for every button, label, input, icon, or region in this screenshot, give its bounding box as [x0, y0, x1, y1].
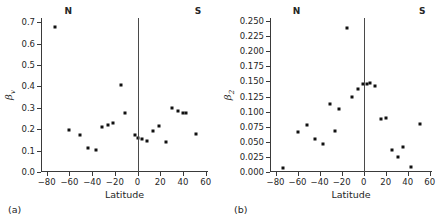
data-point	[369, 81, 372, 84]
data-point	[306, 124, 309, 127]
data-point	[321, 143, 324, 146]
data-point	[350, 96, 353, 99]
data-point	[177, 110, 180, 113]
y-tick-label-a: 0.0	[21, 168, 35, 177]
data-point	[101, 125, 104, 128]
data-point	[346, 27, 349, 30]
x-tick-label-a: 40	[178, 178, 189, 187]
y-axis-title-b: β2	[222, 90, 236, 100]
data-point	[145, 140, 148, 143]
data-point	[185, 111, 188, 114]
x-tick-label-a: −80	[38, 178, 56, 187]
y-tick-label-b: 0.150	[240, 77, 264, 86]
y-tick-b	[266, 127, 270, 128]
y-axis-title-sub-a: v	[9, 90, 17, 94]
x-tick-label-b: 40	[402, 178, 413, 187]
figure-scatter-panels: N S Latitude βv 0.00.10.20.30.40.50.60.7…	[0, 0, 440, 221]
y-tick-b	[266, 21, 270, 22]
x-tick-b	[408, 172, 409, 176]
data-point	[78, 133, 81, 136]
y-tick-b	[266, 172, 270, 173]
y-tick-label-b: 0.250	[240, 17, 264, 26]
x-tick-a	[183, 172, 184, 176]
x-axis-title-a: Latitude	[41, 189, 208, 200]
y-axis-title-sub-b: 2	[228, 90, 236, 94]
y-tick-label-a: 0.5	[21, 61, 35, 70]
x-tick-a	[92, 172, 93, 176]
data-point	[164, 141, 167, 144]
data-point	[328, 102, 331, 105]
data-point	[402, 145, 405, 148]
y-tick-label-a: 0.7	[21, 18, 35, 27]
data-point	[53, 25, 56, 28]
x-tick-a	[115, 172, 116, 176]
data-point	[334, 129, 337, 132]
x-tick-b	[320, 172, 321, 176]
y-tick-label-b: 0.000	[240, 168, 264, 177]
x-tick-b	[298, 172, 299, 176]
x-tick-label-b: −80	[267, 178, 285, 187]
hemisphere-label-south-b: S	[419, 6, 425, 16]
data-point	[94, 148, 97, 151]
data-point	[357, 88, 360, 91]
hemisphere-label-north-b: N	[293, 6, 301, 16]
x-tick-b	[430, 172, 431, 176]
data-point	[384, 116, 387, 119]
data-point	[314, 137, 317, 140]
y-tick-a	[37, 65, 41, 66]
x-tick-label-b: −20	[333, 178, 351, 187]
data-point	[396, 155, 399, 158]
y-tick-b	[266, 36, 270, 37]
x-tick-a	[47, 172, 48, 176]
y-tick-label-a: 0.1	[21, 146, 35, 155]
x-axis-title-b: Latitude	[270, 189, 432, 200]
data-point	[68, 129, 71, 132]
y-tick-a	[37, 86, 41, 87]
y-tick-label-b: 0.200	[240, 47, 264, 56]
reference-line-a	[138, 18, 139, 172]
data-point	[373, 85, 376, 88]
data-point	[296, 130, 299, 133]
data-point	[152, 129, 155, 132]
y-tick-label-b: 0.075	[240, 122, 264, 131]
y-tick-label-b: 0.025	[240, 153, 264, 162]
y-axis-a	[41, 18, 42, 172]
y-tick-a	[37, 44, 41, 45]
x-tick-b	[342, 172, 343, 176]
y-tick-label-a: 0.3	[21, 104, 35, 113]
y-tick-a	[37, 129, 41, 130]
x-tick-label-b: 0	[361, 178, 366, 187]
hemisphere-label-north-a: N	[64, 6, 72, 16]
x-tick-b	[276, 172, 277, 176]
y-tick-b	[266, 157, 270, 158]
data-point	[107, 123, 110, 126]
data-point	[338, 108, 341, 111]
x-tick-label-b: 60	[424, 178, 435, 187]
data-point	[194, 132, 197, 135]
y-tick-b	[266, 51, 270, 52]
y-tick-b	[266, 66, 270, 67]
plot-area-b: N S Latitude β2 0.0000.0250.0500.0750.10…	[270, 18, 432, 172]
data-point	[119, 83, 122, 86]
y-tick-label-b: 0.175	[240, 62, 264, 71]
data-point	[124, 111, 127, 114]
y-tick-label-a: 0.2	[21, 125, 35, 134]
y-axis-title-base-a: β	[3, 94, 14, 100]
reference-line-b	[364, 18, 365, 172]
y-axis-title-base-b: β	[222, 94, 233, 100]
y-tick-label-a: 0.4	[21, 82, 35, 91]
data-point	[170, 106, 173, 109]
y-tick-label-a: 0.6	[21, 39, 35, 48]
x-tick-b	[386, 172, 387, 176]
y-tick-a	[37, 151, 41, 152]
y-tick-label-b: 0.125	[240, 92, 264, 101]
y-tick-label-b: 0.225	[240, 32, 264, 41]
y-tick-label-b: 0.050	[240, 138, 264, 147]
data-point	[86, 147, 89, 150]
data-point	[380, 118, 383, 121]
x-tick-label-a: −20	[106, 178, 124, 187]
y-tick-a	[37, 108, 41, 109]
data-point	[410, 165, 413, 168]
x-tick-label-b: 20	[380, 178, 391, 187]
y-tick-b	[266, 97, 270, 98]
